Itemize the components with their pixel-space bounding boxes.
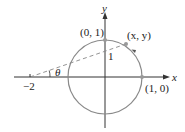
point-right (140, 75, 144, 79)
point-top-label: (0, 1) (80, 26, 104, 39)
x-axis-arrow-icon (163, 75, 170, 80)
angle-arc (49, 71, 50, 78)
y-axis-label: y (101, 2, 107, 14)
angle-label: θ (55, 66, 61, 78)
point-right-label: (1, 0) (145, 82, 169, 95)
x-axis-label: x (171, 71, 177, 83)
point-moving (124, 42, 128, 46)
unit-circle-diagram: x y (0, 1) (1, 0) (x, y) −2 1 θ (0, 0, 185, 132)
segment-length-label: 1 (108, 50, 114, 62)
point-top (103, 38, 107, 42)
x-axis (14, 75, 170, 80)
point-moving-label: (x, y) (127, 29, 151, 42)
point-pole-label: −2 (23, 80, 35, 92)
